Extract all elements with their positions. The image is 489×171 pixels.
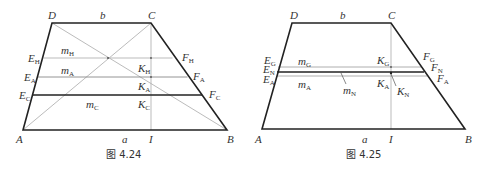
point-kn bbox=[390, 72, 392, 74]
label-b: b bbox=[100, 9, 106, 21]
label-k-a: KA bbox=[376, 77, 389, 91]
label-f-a: FA bbox=[436, 72, 449, 86]
label-m-n: mN bbox=[343, 84, 356, 98]
label-e-c: EC bbox=[18, 89, 31, 103]
caption-4-24: 图 4.24 bbox=[106, 149, 141, 160]
label-i: I bbox=[388, 133, 394, 145]
label-a-base: a bbox=[122, 133, 128, 145]
pointer-m-n bbox=[341, 73, 346, 84]
label-f-h: FH bbox=[181, 51, 194, 65]
point-kc bbox=[150, 94, 152, 96]
label-f-a: FA bbox=[192, 70, 205, 84]
label-k-g: KG bbox=[376, 54, 389, 68]
label-i: I bbox=[148, 133, 154, 145]
label-k-h: KH bbox=[137, 62, 150, 76]
figures-canvas: D b C EH mH FH KH EA mA FA KA EC mC FC K… bbox=[0, 0, 489, 171]
label-a-vertex: A bbox=[254, 133, 262, 145]
point-kh bbox=[150, 57, 152, 59]
label-a-base: a bbox=[362, 133, 368, 145]
label-d: D bbox=[289, 9, 298, 21]
caption-4-25: 图 4.25 bbox=[346, 149, 381, 160]
intersection-dot bbox=[107, 57, 109, 59]
label-m-a: mA bbox=[61, 64, 74, 78]
label-f-c: FC bbox=[208, 88, 221, 102]
figure-4-25: D b C EG mG FG KG EN FN EA mA FA KA mN K… bbox=[254, 9, 472, 160]
label-c: C bbox=[148, 9, 156, 21]
diagonal-ca bbox=[23, 23, 151, 130]
point-ka bbox=[150, 76, 152, 78]
label-b-vertex: B bbox=[465, 133, 472, 145]
label-k-n: KN bbox=[396, 85, 409, 99]
label-c: C bbox=[388, 9, 396, 21]
label-m-g: mG bbox=[298, 55, 311, 69]
label-a-vertex: A bbox=[15, 133, 23, 145]
label-m-h: mH bbox=[61, 44, 74, 58]
point-kg bbox=[390, 66, 392, 68]
label-d: D bbox=[47, 9, 56, 21]
label-k-c: KC bbox=[137, 98, 150, 112]
label-m-a: mA bbox=[298, 78, 311, 92]
label-b: b bbox=[340, 9, 346, 21]
label-b-vertex: B bbox=[227, 133, 234, 145]
label-e-h: EH bbox=[27, 52, 40, 66]
label-e-a: EA bbox=[23, 71, 36, 85]
figure-4-24: D b C EH mH FH KH EA mA FA KA EC mC FC K… bbox=[15, 9, 234, 160]
label-m-c: mC bbox=[86, 98, 99, 112]
